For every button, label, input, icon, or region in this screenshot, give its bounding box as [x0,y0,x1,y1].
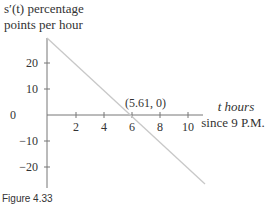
x-tick-label: 8 [157,120,163,134]
x-axis-label-line1: t hours [218,99,254,114]
y-tick-label: 20 [26,56,38,70]
y-axis-label-line2: points per hour [4,17,83,32]
y-tick-label: 0 [10,108,16,122]
x-tick-label: 10 [182,120,194,134]
y-axis-label-line1: s′(t) percentage [4,1,84,16]
x-axis-label-line2: since 9 P.M. [201,115,265,130]
x-tick-label: 6 [129,120,135,134]
chart: s′(t) percentage points per hour 20 10 0… [0,0,268,207]
y-tick-label: 10 [26,82,38,96]
derivative-line [47,38,205,184]
figure-caption: Figure 4.33 [2,193,53,204]
y-tick-label: −20 [19,160,38,174]
x-tick-label: 2 [73,120,79,134]
zero-crossing-annotation: (5.61, 0) [125,96,166,110]
y-tick-label: −10 [19,134,38,148]
x-tick-label: 4 [101,120,107,134]
